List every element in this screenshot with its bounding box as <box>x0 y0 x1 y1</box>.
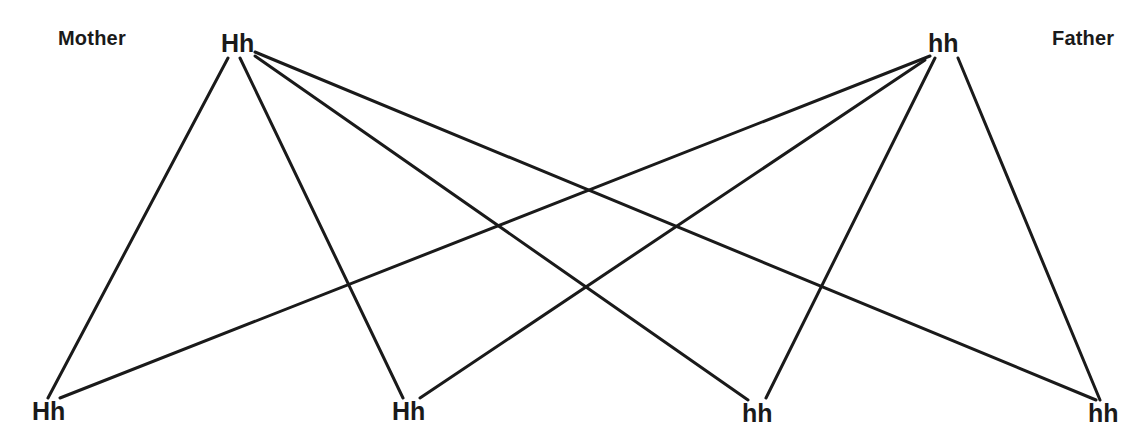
inheritance-lines-group <box>0 0 1148 446</box>
punnett-cross-diagram: Mother Father Hh hh Hh Hh hh hh <box>0 0 1148 446</box>
inheritance-line-father-to-child-4 <box>958 58 1100 400</box>
mother-title-label: Mother <box>58 28 126 48</box>
mother-genotype-node: Hh <box>221 31 254 56</box>
offspring-genotype-node-2: Hh <box>392 399 425 424</box>
father-genotype-node: hh <box>928 31 959 56</box>
inheritance-line-mother-to-child-2 <box>240 58 403 398</box>
offspring-genotype-node-1: Hh <box>32 399 65 424</box>
father-title-label: Father <box>1052 28 1114 48</box>
offspring-genotype-node-4: hh <box>1088 401 1119 426</box>
offspring-genotype-node-3: hh <box>742 401 773 426</box>
inheritance-line-mother-to-child-1 <box>48 58 228 398</box>
